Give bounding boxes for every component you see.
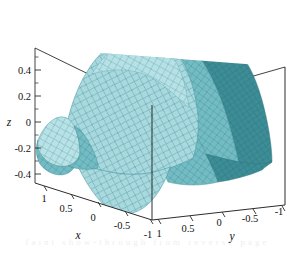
z-tick-label-1: 0.2 [18,91,31,102]
x-tick-label-1: 0.5 [59,203,72,214]
x-tick-label-0: 1 [41,193,46,204]
y-tick-label-4: -1 [275,206,284,217]
x-tick-label-4: -1 [144,229,153,240]
z-axis-label: z [6,116,12,128]
z-tick-label-2: 0 [26,117,31,128]
plot-canvas: 0.4 0.2 0 -0.2 -0.4 z 1 0.5 0 -0.5 -1 x … [0,0,295,255]
surface-plot-figure: 0.4 0.2 0 -0.2 -0.4 z 1 0.5 0 -0.5 -1 x … [0,0,295,255]
x-axis-label: x [74,229,81,241]
z-tick-label-3: -0.2 [14,143,31,154]
y-tick-label-0: 1 [156,228,161,239]
y-tick-label-2: 0 [216,217,221,228]
y-axis-label: y [228,230,235,243]
z-tick-label-0: 0.4 [18,65,32,76]
x-tick-label-2: 0 [90,212,95,223]
z-tick-label-4: -0.4 [14,169,31,180]
y-tick-label-1: 0.5 [181,223,194,234]
x-tick-label-3: -0.5 [114,220,131,231]
surface-mesh [36,34,272,214]
y-tick-label-3: -0.5 [242,213,259,224]
